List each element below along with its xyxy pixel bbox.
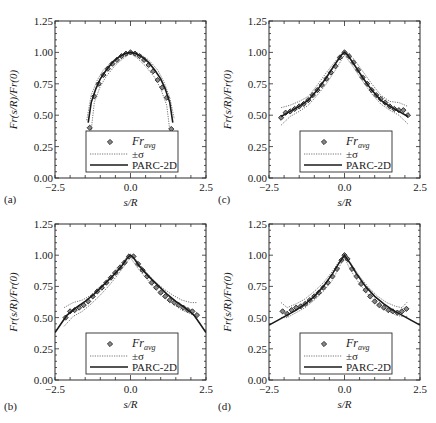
y-tick-label: 0.25: [248, 343, 268, 355]
legend: Fravg±σPARC-2D: [300, 333, 392, 374]
figure: 0.000.250.500.751.001.25−2.50.02.5s/RFr(…: [0, 0, 436, 423]
y-axis-label: Fr(s/R)/Fr(0): [7, 70, 20, 131]
legend-label-parc2d: PARC-2D: [132, 159, 177, 171]
sigma-band-line: [64, 254, 197, 308]
y-tick-label: 1.25: [34, 15, 54, 27]
y-tick-label: 1.25: [248, 218, 268, 230]
x-tick-label: 2.5: [413, 383, 427, 395]
panel-d: 0.000.250.500.751.001.25−2.50.02.5s/RFr(…: [218, 218, 427, 413]
x-tick-label: 0.0: [124, 181, 138, 193]
sigma-band-line: [281, 254, 408, 308]
panel-label: (a): [4, 193, 17, 206]
legend: Fravg±σPARC-2D: [86, 333, 178, 374]
panel-b: 0.000.250.500.751.001.25−2.50.02.5s/RFr(…: [4, 218, 213, 413]
legend-label-parc2d: PARC-2D: [346, 361, 391, 373]
y-tick-label: 1.25: [34, 218, 54, 230]
legend: Fravg±σPARC-2D: [300, 131, 392, 172]
y-tick-label: 0.50: [248, 312, 268, 324]
legend: Fravg±σPARC-2D: [86, 131, 178, 172]
x-tick-label: 0.0: [124, 383, 138, 395]
sigma-band-line: [281, 55, 408, 125]
legend-label-parc2d: PARC-2D: [132, 361, 177, 373]
x-axis-label: s/R: [123, 398, 137, 410]
y-tick-label: 0.75: [248, 78, 268, 90]
y-tick-label: 1.00: [34, 46, 54, 58]
y-tick-label: 0.75: [34, 78, 54, 90]
y-axis-label: Fr(s/R)/Fr(0): [221, 70, 234, 131]
x-tick-label: −2.5: [45, 383, 65, 395]
y-tick-label: 0.25: [34, 343, 54, 355]
panel-a: 0.000.250.500.751.001.25−2.50.02.5s/RFr(…: [4, 15, 213, 208]
sigma-band-line: [64, 258, 197, 327]
y-tick-label: 0.50: [34, 312, 54, 324]
parc-2d-line: [55, 255, 206, 332]
x-tick-label: 0.0: [338, 383, 352, 395]
x-tick-label: −2.5: [259, 383, 279, 395]
x-tick-label: −2.5: [45, 181, 65, 193]
x-tick-label: 2.5: [199, 383, 213, 395]
sigma-band-line: [281, 51, 408, 108]
y-axis-label: Fr(s/R)/Fr(0): [221, 272, 234, 333]
panel-c: 0.000.250.500.751.001.25−2.50.02.5s/RFr(…: [218, 15, 427, 208]
y-tick-label: 0.50: [248, 109, 268, 121]
y-tick-label: 0.25: [248, 141, 268, 153]
y-tick-label: 1.25: [248, 15, 268, 27]
y-tick-label: 0.75: [34, 280, 54, 292]
y-tick-label: 1.00: [34, 249, 54, 261]
y-tick-label: 0.75: [248, 280, 268, 292]
data-point-marker: [377, 303, 382, 308]
sigma-band-line: [91, 54, 170, 131]
x-tick-label: 2.5: [413, 181, 427, 193]
y-tick-label: 1.00: [248, 46, 268, 58]
panel-label: (b): [4, 400, 17, 413]
x-tick-label: −2.5: [259, 181, 279, 193]
legend-label-parc2d: PARC-2D: [346, 159, 391, 171]
x-tick-label: 2.5: [199, 181, 213, 193]
series-group: [278, 50, 410, 125]
x-tick-label: 0.0: [338, 181, 352, 193]
y-axis-label: Fr(s/R)/Fr(0): [7, 272, 20, 333]
series-group: [269, 253, 420, 326]
panel-label: (c): [218, 193, 231, 206]
series-group: [87, 50, 175, 132]
y-tick-label: 1.00: [248, 249, 268, 261]
panel-label: (d): [218, 400, 231, 413]
x-axis-label: s/R: [337, 398, 351, 410]
x-axis-label: s/R: [337, 196, 351, 208]
y-tick-label: 0.25: [34, 141, 54, 153]
x-axis-label: s/R: [123, 196, 137, 208]
y-tick-label: 0.50: [34, 109, 54, 121]
series-group: [55, 254, 206, 333]
data-point-marker: [280, 309, 285, 314]
data-point-marker: [404, 306, 409, 311]
